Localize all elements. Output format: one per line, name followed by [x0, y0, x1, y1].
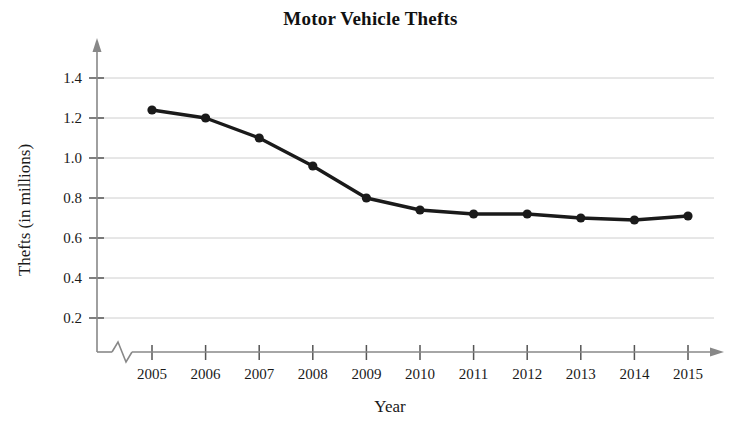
y-axis-title: Thefts (in millions): [15, 144, 34, 276]
x-axis-tick-label: 2010: [405, 366, 435, 382]
y-axis-tick-label: 1.2: [63, 110, 82, 126]
data-point-marker: 2005: 1.24: [147, 105, 156, 114]
x-axis-arrow-icon: [710, 348, 724, 357]
x-axis-tick-label: 2012: [512, 366, 542, 382]
data-point-marker: 2014: 0.69: [630, 215, 639, 224]
data-series-line: [152, 110, 688, 220]
x-axis-tick-label: 2015: [673, 366, 703, 382]
y-axis-tick-label: 0.8: [63, 190, 82, 206]
data-point-marker: 2012: 0.72: [523, 209, 532, 218]
y-axis-arrow-icon: [93, 38, 102, 52]
y-axis-tick-labels-group: 0.20.40.60.81.01.21.4: [63, 70, 82, 326]
y-axis-tick-label: 1.4: [63, 70, 82, 86]
x-axis-tick-label: 2008: [298, 366, 328, 382]
y-axis-tick-label: 1.0: [63, 150, 82, 166]
x-axis-tick-labels-group: 2005200620072008200920102011201220132014…: [137, 366, 703, 382]
y-axis-tick-label: 0.2: [63, 310, 82, 326]
data-point-marker: 2007: 1.1: [255, 133, 264, 142]
data-point-marker: 2010: 0.74: [415, 205, 424, 214]
data-point-marker: 2008: 0.96: [308, 161, 317, 170]
data-point-marker: 2013: 0.7: [576, 213, 585, 222]
x-axis-tick-label: 2013: [566, 366, 596, 382]
x-axis-tick-label: 2009: [351, 366, 381, 382]
y-axis-tick-label: 0.6: [63, 230, 82, 246]
data-point-markers-group: 2005: 1.242006: 1.22007: 1.12008: 0.9620…: [147, 105, 692, 224]
chart-page: Motor Vehicle Thefts 0.20.40.60.81.01.21…: [0, 0, 741, 441]
x-axis-tick-label: 2011: [459, 366, 488, 382]
data-point-marker: 2006: 1.2: [201, 113, 210, 122]
x-axis-tick-label: 2005: [137, 366, 167, 382]
data-point-marker: 2009: 0.8: [362, 193, 371, 202]
x-axis-tick-label: 2006: [191, 366, 222, 382]
data-point-marker: 2011: 0.72: [469, 209, 478, 218]
x-axis-title: Year: [374, 397, 406, 416]
data-point-marker: 2015: 0.71: [683, 211, 692, 220]
x-axis-tick-label: 2014: [619, 366, 650, 382]
y-axis-tick-label: 0.4: [63, 270, 82, 286]
line-chart: 0.20.40.60.81.01.21.4 200520062007200820…: [0, 0, 741, 441]
axis-break-zigzag-icon: [112, 342, 132, 362]
x-axis-tick-label: 2007: [244, 366, 275, 382]
